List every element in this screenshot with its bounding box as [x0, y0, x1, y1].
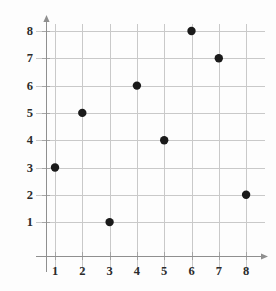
scatter-plot-figure: 12345678 12345678: [0, 0, 276, 291]
data-point: [105, 218, 113, 226]
y-tick-label: 3: [27, 161, 33, 174]
x-tick-label: 8: [243, 265, 249, 278]
y-tick-label: 6: [27, 79, 33, 92]
x-tick-label: 7: [216, 265, 222, 278]
x-tick-label: 6: [188, 265, 194, 278]
data-point: [160, 136, 168, 144]
y-tick-label: 5: [27, 107, 33, 120]
x-axis-arrow-icon: [261, 253, 268, 259]
y-tick-label: 1: [27, 216, 33, 229]
data-point: [215, 54, 223, 62]
y-tick-label: 8: [27, 25, 33, 38]
y-axis-arrow-icon: [43, 15, 49, 22]
data-point: [78, 109, 86, 117]
data-point: [51, 163, 59, 171]
axis-lines: [36, 15, 268, 272]
x-tick-label: 3: [106, 265, 112, 278]
x-tick-label: 2: [79, 265, 85, 278]
y-tick-label: 4: [27, 134, 33, 147]
data-point: [133, 81, 141, 89]
x-tick-label: 1: [52, 265, 58, 278]
data-point: [242, 191, 250, 199]
x-tick-label: 4: [134, 265, 140, 278]
data-point: [187, 27, 195, 35]
plot-canvas: [0, 0, 276, 291]
horizontal-gridlines: [36, 32, 265, 223]
axis-tick-marks: [42, 32, 247, 261]
y-tick-label: 2: [27, 189, 33, 202]
x-tick-label: 5: [161, 265, 167, 278]
data-point-series: [51, 27, 251, 227]
y-tick-label: 7: [27, 52, 33, 65]
